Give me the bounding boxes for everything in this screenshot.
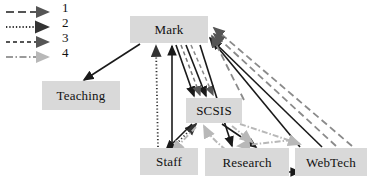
node-webtech-label: WebTech: [306, 156, 356, 169]
legend-label-4: 4: [62, 45, 69, 61]
node-staff-label: Staff: [156, 155, 182, 168]
edge-research-mark-longdash: [214, 34, 336, 146]
node-mark-label: Mark: [155, 23, 184, 36]
edge-research-scsis-dashdot: [204, 126, 226, 150]
edge-scsis-research-dashdot: [232, 126, 252, 142]
edge-staff-mark-dotted: [156, 46, 158, 147]
legend-label-2: 2: [62, 15, 69, 31]
edge-mark-scsis-solid-2: [176, 45, 194, 96]
node-research-label: Research: [222, 156, 271, 169]
edge-webtech-mark-solid: [212, 40, 322, 147]
edge-mark-research-solid: [200, 45, 232, 146]
node-scsis[interactable]: SCSIS: [186, 98, 242, 123]
legend-label-3: 3: [62, 30, 69, 46]
edge-scsis-research-solid: [222, 124, 256, 147]
node-research[interactable]: Research: [205, 148, 289, 176]
edge-research-mark-solid: [210, 38, 300, 147]
legend-label-1: 1: [62, 0, 69, 16]
node-teaching[interactable]: Teaching: [42, 81, 120, 110]
diagram-canvas: Mark Teaching SCSIS Staff Research WebTe…: [0, 0, 373, 187]
edge-mark-teaching: [84, 44, 140, 80]
node-webtech[interactable]: WebTech: [295, 148, 367, 176]
node-scsis-label: SCSIS: [196, 104, 232, 117]
node-mark[interactable]: Mark: [130, 16, 208, 43]
node-staff[interactable]: Staff: [140, 148, 198, 175]
legend-row-4: 4: [4, 49, 78, 64]
edge-scsis-mark-longdash: [212, 36, 244, 100]
node-teaching-label: Teaching: [56, 89, 105, 102]
legend: 1 2 3 4: [4, 4, 78, 64]
